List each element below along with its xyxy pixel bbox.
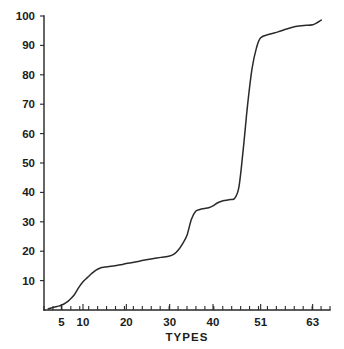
- y-tick-label: 20: [22, 245, 35, 257]
- chart-figure: 102030405060708090100 5102030405163 TYPE…: [0, 0, 344, 349]
- chart-canvas: 102030405060708090100 5102030405163 TYPE…: [0, 0, 344, 349]
- x-tick-label: 51: [254, 316, 267, 328]
- x-tick-label: 63: [306, 316, 319, 328]
- y-tick-label: 70: [22, 98, 35, 110]
- plot-background: [0, 0, 344, 349]
- x-tick-label: 10: [77, 316, 90, 328]
- y-tick-label: 50: [22, 157, 35, 169]
- y-tick-label: 40: [22, 186, 35, 198]
- x-tick-label: 20: [120, 316, 133, 328]
- x-axis-title: TYPES: [165, 331, 208, 343]
- y-tick-label: 10: [22, 275, 35, 287]
- y-tick-label: 30: [22, 216, 35, 228]
- x-tick-label: 30: [163, 316, 176, 328]
- x-tick-label: 5: [58, 316, 65, 328]
- y-tick-label: 100: [16, 10, 35, 22]
- y-tick-label: 60: [22, 128, 35, 140]
- y-tick-label: 90: [22, 39, 35, 51]
- x-tick-label: 40: [207, 316, 220, 328]
- y-tick-label: 80: [22, 69, 35, 81]
